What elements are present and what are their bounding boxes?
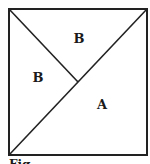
figure-caption: Fig	[9, 159, 69, 164]
square-diagram	[0, 0, 150, 164]
region-label-b-left: B	[33, 71, 44, 84]
partition-line	[9, 9, 78, 82]
figure-caption-text: Fig	[9, 159, 30, 164]
region-label-b-top: B	[74, 32, 85, 45]
region-label-a: A	[97, 98, 107, 111]
geometry-figure: B B A Fig	[0, 0, 150, 164]
